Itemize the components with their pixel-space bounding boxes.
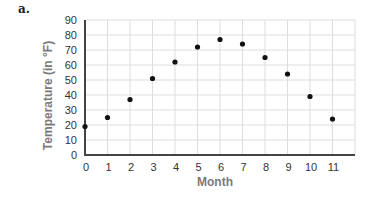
y-tick-label: 0 <box>71 149 77 161</box>
x-tick-label: 10 <box>305 161 317 173</box>
y-tick-label: 60 <box>65 59 77 71</box>
x-tick-label: 5 <box>195 161 201 173</box>
y-tick-label: 30 <box>65 104 77 116</box>
x-tick-labels: 01234567891011 <box>83 161 339 173</box>
data-points <box>82 37 335 129</box>
y-tick-label: 70 <box>65 44 77 56</box>
y-tick-labels: 0102030405060708090 <box>65 14 77 161</box>
y-tick-label: 40 <box>65 89 77 101</box>
data-point <box>217 37 222 42</box>
data-point <box>285 71 290 76</box>
x-tick-label: 9 <box>285 161 291 173</box>
data-point <box>240 41 245 46</box>
data-point <box>195 44 200 49</box>
data-point <box>105 115 110 120</box>
y-tick-label: 10 <box>65 134 77 146</box>
y-tick-label: 50 <box>65 74 77 86</box>
data-point <box>127 97 132 102</box>
x-tick-label: 2 <box>128 161 134 173</box>
x-tick-label: 7 <box>240 161 246 173</box>
scatter-chart: 0102030405060708090 01234567891011 Month… <box>0 0 367 198</box>
y-tick-label: 80 <box>65 29 77 41</box>
x-tick-label: 1 <box>105 161 111 173</box>
x-tick-label: 3 <box>150 161 156 173</box>
x-tick-label: 6 <box>218 161 224 173</box>
data-point <box>262 55 267 60</box>
x-axis-title: Month <box>197 175 233 189</box>
data-point <box>150 76 155 81</box>
y-axis-title: Temperature (in °F) <box>41 41 55 150</box>
data-point <box>330 116 335 121</box>
x-tick-label: 11 <box>328 161 339 173</box>
data-point <box>82 124 87 129</box>
x-tick-label: 8 <box>263 161 269 173</box>
data-point <box>172 59 177 64</box>
x-tick-label: 0 <box>83 161 89 173</box>
y-tick-label: 90 <box>65 14 77 26</box>
data-point <box>307 94 312 99</box>
x-tick-label: 4 <box>173 161 179 173</box>
y-tick-label: 20 <box>65 119 77 131</box>
